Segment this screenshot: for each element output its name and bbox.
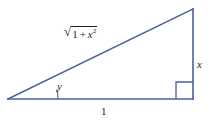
radicand-group: 1+x2 <box>71 26 97 40</box>
vertical-leg-label: x <box>197 59 202 70</box>
right-angle-marker-icon <box>176 82 193 99</box>
radical-sign-icon: √ <box>64 25 71 38</box>
hypotenuse-label: √ 1+x2 <box>64 26 97 40</box>
radicand-constant: 1 <box>72 28 78 40</box>
radicand-exponent: 2 <box>93 27 97 35</box>
angle-label: y <box>57 81 62 92</box>
radicand-operator: + <box>78 28 88 40</box>
base-leg-label: 1 <box>101 106 107 117</box>
triangle-hypotenuse <box>8 9 193 99</box>
right-triangle-diagram: √ 1+x2 y x 1 <box>0 0 211 123</box>
